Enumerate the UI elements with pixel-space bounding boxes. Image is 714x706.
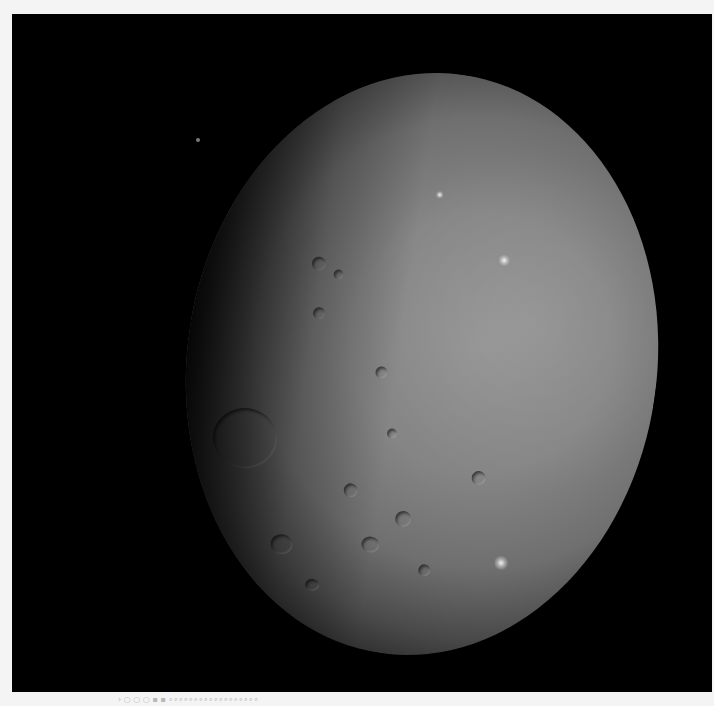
terminator-shadow [149,42,696,686]
footer-marks-text: › ○ ○ ○ ▪ ▪ ∘∘∘∘∘∘∘∘∘∘∘∘∘∘∘∘∘∘ [118,695,258,704]
planet-ceres [149,42,696,686]
footer-marks: › ○ ○ ○ ▪ ▪ ∘∘∘∘∘∘∘∘∘∘∘∘∘∘∘∘∘∘ [118,695,258,704]
background-star [196,138,200,142]
image-frame [12,14,712,692]
